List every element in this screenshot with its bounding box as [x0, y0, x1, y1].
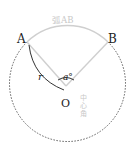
- central-angle-char-2: 心: [80, 102, 87, 110]
- angle-label: a°: [63, 72, 73, 82]
- arc-ab: [27, 26, 108, 42]
- major-arc-dashed: [9, 42, 125, 142]
- circle-diagram: A B O 弧AB r a° 中 心 角: [0, 0, 135, 152]
- arc-label: 弧AB: [52, 15, 73, 25]
- point-a-label: A: [16, 32, 26, 46]
- point-b-label: B: [108, 32, 117, 46]
- central-angle-char-3: 角: [80, 109, 87, 118]
- radius-brace: [29, 45, 64, 90]
- point-o-label: O: [61, 97, 70, 110]
- central-angle-char-1: 中: [80, 93, 87, 102]
